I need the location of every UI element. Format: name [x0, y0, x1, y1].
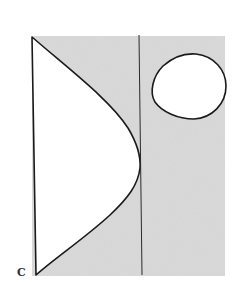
- diagram-canvas: [0, 0, 233, 305]
- corner-label: C: [17, 267, 26, 278]
